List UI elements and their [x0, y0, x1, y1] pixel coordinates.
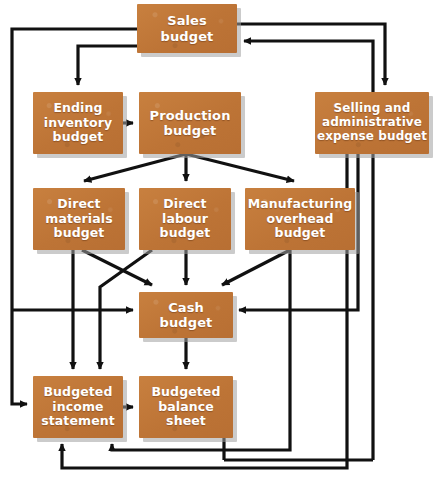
node-budgeted-income-statement-line-2: income — [41, 400, 115, 415]
node-manufacturing-overhead-budget-line-3: budget — [248, 226, 352, 241]
node-sales-budget-line-1: Sales — [161, 13, 214, 28]
node-selling-administrative-expense-budget-line-2: administrative — [317, 116, 427, 130]
node-budgeted-balance-sheet[interactable]: Budgeted balance sheet — [139, 376, 233, 438]
edge-overhead-to-cash — [222, 250, 290, 285]
node-direct-labour-budget-line-2: labour — [160, 212, 211, 227]
node-budgeted-income-statement[interactable]: Budgeted income statement — [33, 376, 123, 438]
node-sales-budget[interactable]: Sales budget — [137, 4, 237, 53]
master-budget-flowchart: Sales budget Ending inventory budget Pro… — [0, 0, 447, 486]
node-manufacturing-overhead-budget[interactable]: Manufacturing overhead budget — [245, 188, 355, 250]
node-selling-administrative-expense-budget-line-3: expense budget — [317, 130, 427, 144]
node-budgeted-balance-sheet-line-3: sheet — [151, 414, 220, 429]
edge-sales-to-selling — [237, 24, 385, 85]
node-ending-inventory-budget-line-1: Ending — [44, 101, 112, 116]
node-direct-labour-budget[interactable]: Direct labour budget — [139, 188, 231, 250]
node-production-budget-line-2: budget — [150, 123, 231, 138]
node-ending-inventory-budget[interactable]: Ending inventory budget — [33, 92, 123, 154]
node-sales-budget-line-2: budget — [161, 29, 214, 44]
edge-production-to-materials — [84, 154, 186, 181]
node-cash-budget-line-2: budget — [160, 315, 213, 330]
node-production-budget-line-1: Production — [150, 108, 231, 123]
node-direct-materials-budget-line-3: budget — [45, 226, 112, 241]
node-direct-materials-budget[interactable]: Direct materials budget — [33, 188, 125, 250]
node-production-budget[interactable]: Production budget — [139, 92, 241, 154]
node-budgeted-balance-sheet-line-1: Budgeted — [151, 385, 220, 400]
node-direct-labour-budget-line-1: Direct — [160, 197, 211, 212]
edge-production-to-overhead — [186, 154, 294, 181]
node-manufacturing-overhead-budget-line-2: overhead — [248, 212, 352, 227]
node-cash-budget[interactable]: Cash budget — [139, 292, 233, 338]
node-budgeted-balance-sheet-line-2: balance — [151, 400, 220, 415]
node-ending-inventory-budget-line-3: budget — [44, 130, 112, 145]
node-budgeted-income-statement-line-3: statement — [41, 414, 115, 429]
node-direct-materials-budget-line-2: materials — [45, 212, 112, 227]
node-cash-budget-line-1: Cash — [160, 300, 213, 315]
node-budgeted-income-statement-line-1: Budgeted — [41, 385, 115, 400]
node-selling-administrative-expense-budget-line-1: Selling and — [317, 102, 427, 116]
edge-sales-to-ending — [78, 46, 137, 85]
node-manufacturing-overhead-budget-line-1: Manufacturing — [248, 197, 352, 212]
node-ending-inventory-budget-line-2: inventory — [44, 116, 112, 131]
node-selling-administrative-expense-budget[interactable]: Selling and administrative expense budge… — [315, 92, 429, 154]
node-direct-labour-budget-line-3: budget — [160, 226, 211, 241]
node-direct-materials-budget-line-1: Direct — [45, 197, 112, 212]
edge-materials-to-cash — [82, 250, 152, 285]
